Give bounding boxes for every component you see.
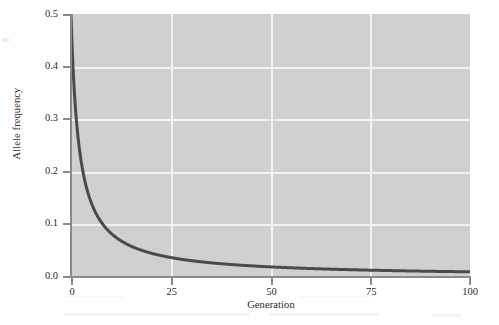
x-tick-75 — [370, 278, 372, 285]
x-tick-0 — [71, 278, 73, 285]
y-ticklabel-0.0: 0.0 — [32, 271, 58, 282]
y-axis-line — [70, 14, 72, 278]
x-axis-label: Generation — [171, 299, 371, 310]
figure-canvas: 0.0 0.1 0.2 0.3 0.4 0.5 0 25 50 75 100 A… — [0, 0, 499, 325]
y-ticklabel-0.3: 0.3 — [32, 113, 58, 124]
allele-frequency-line — [71, 14, 470, 272]
y-tick-0.5 — [63, 14, 70, 16]
scan-artifact-left — [2, 38, 9, 42]
x-ticklabel-25: 25 — [152, 287, 192, 298]
x-tick-25 — [171, 278, 173, 285]
y-tick-0.0 — [63, 276, 70, 278]
x-ticklabel-100: 100 — [450, 287, 490, 298]
y-axis-label: Allele frequency — [11, 74, 22, 174]
x-tick-100 — [469, 278, 471, 285]
y-ticklabel-0.2: 0.2 — [32, 166, 58, 177]
y-tick-0.4 — [63, 66, 70, 68]
y-ticklabel-0.1: 0.1 — [32, 218, 58, 229]
y-tick-0.2 — [63, 171, 70, 173]
x-ticklabel-50: 50 — [252, 287, 292, 298]
scan-artifact-bottom-2 — [268, 313, 380, 316]
x-tick-50 — [271, 278, 273, 285]
y-tick-0.1 — [63, 223, 70, 225]
x-ticklabel-75: 75 — [351, 287, 391, 298]
x-ticklabel-0: 0 — [52, 287, 92, 298]
y-ticklabel-0.5: 0.5 — [32, 9, 58, 20]
scan-artifact-bottom-3 — [432, 314, 462, 317]
y-ticklabel-0.4: 0.4 — [32, 61, 58, 72]
y-tick-0.3 — [63, 118, 70, 120]
scan-artifact-bottom-1 — [64, 313, 250, 316]
data-curve — [71, 14, 470, 277]
